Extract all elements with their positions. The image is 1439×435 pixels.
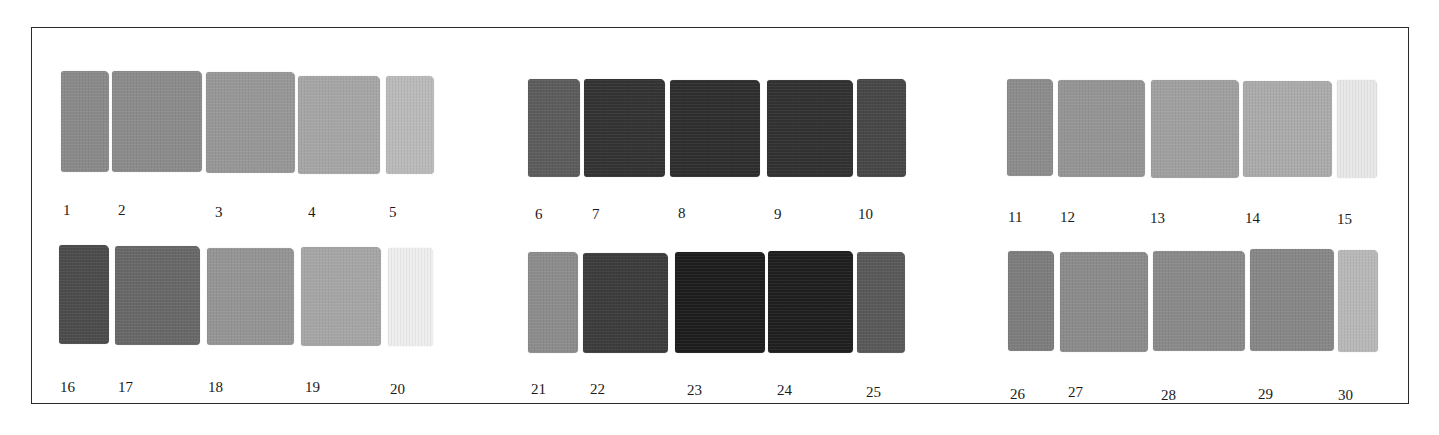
paint-swatch-4	[298, 76, 380, 174]
swatch-number-label: 24	[777, 383, 792, 398]
swatch-number-label: 28	[1161, 388, 1176, 403]
paint-swatch-27	[1060, 252, 1148, 352]
swatch-number-label: 8	[678, 206, 686, 221]
swatch-number-label: 11	[1008, 210, 1022, 225]
swatch-number-label: 5	[389, 205, 397, 220]
paint-swatch-11	[1007, 79, 1053, 176]
swatch-number-label: 2	[118, 203, 126, 218]
paint-swatch-16	[59, 245, 109, 344]
swatch-number-label: 14	[1245, 211, 1260, 226]
paint-swatch-7	[584, 79, 665, 177]
swatch-number-label: 20	[390, 382, 405, 397]
swatch-number-label: 6	[535, 207, 543, 222]
swatch-number-label: 10	[858, 207, 873, 222]
paint-swatch-29	[1250, 249, 1334, 351]
swatch-number-label: 25	[866, 385, 881, 400]
swatch-number-label: 30	[1338, 388, 1353, 403]
paint-swatch-30	[1338, 250, 1378, 352]
paint-swatch-10	[857, 79, 906, 177]
paint-swatch-18	[207, 248, 294, 345]
swatch-number-label: 7	[592, 207, 600, 222]
paint-swatch-24	[768, 251, 853, 353]
paint-swatch-23	[675, 252, 765, 353]
paint-swatch-2	[112, 71, 202, 172]
swatch-number-label: 1	[63, 203, 71, 218]
paint-swatch-13	[1151, 80, 1239, 178]
swatch-number-label: 27	[1068, 385, 1083, 400]
swatch-number-label: 18	[208, 380, 223, 395]
swatch-number-label: 16	[60, 380, 75, 395]
paint-swatch-3	[206, 72, 295, 173]
paint-swatch-20	[388, 248, 433, 346]
swatch-number-label: 3	[215, 205, 223, 220]
paint-swatch-1	[61, 71, 109, 172]
swatch-number-label: 22	[590, 382, 605, 397]
paint-swatch-28	[1153, 251, 1245, 351]
paint-swatch-25	[857, 252, 905, 353]
swatch-number-label: 26	[1010, 387, 1025, 402]
paint-swatch-17	[115, 246, 200, 345]
paint-swatch-15	[1337, 80, 1377, 178]
paint-swatch-26	[1008, 251, 1054, 351]
swatch-number-label: 17	[118, 380, 133, 395]
swatch-number-label: 12	[1060, 210, 1075, 225]
paint-swatch-14	[1243, 81, 1332, 177]
swatch-number-label: 13	[1150, 211, 1165, 226]
paint-swatch-8	[670, 80, 760, 177]
swatch-number-label: 29	[1258, 387, 1273, 402]
paint-swatch-12	[1058, 80, 1145, 177]
swatch-number-label: 9	[774, 207, 782, 222]
paint-swatch-21	[528, 252, 578, 353]
swatch-number-label: 19	[305, 380, 320, 395]
swatch-number-label: 4	[308, 205, 316, 220]
swatch-number-label: 15	[1337, 212, 1352, 227]
swatch-number-label: 21	[531, 382, 546, 397]
paint-swatch-19	[301, 247, 381, 346]
swatch-number-label: 23	[687, 383, 702, 398]
paint-swatch-9	[767, 80, 853, 177]
paint-swatch-6	[528, 79, 580, 177]
paint-swatch-5	[386, 76, 434, 174]
paint-swatch-22	[583, 253, 668, 353]
